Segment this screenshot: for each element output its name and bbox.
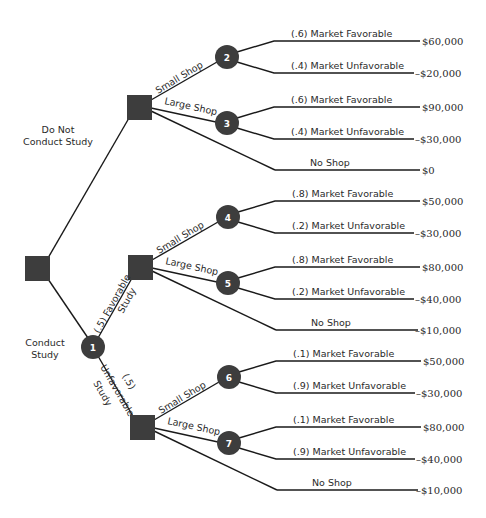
chance-node-5: 5 [216, 271, 240, 295]
decision-node-favorable [128, 255, 153, 280]
chance-node-3: 3 [215, 111, 239, 135]
outcome-label: (.8) Market Favorable [292, 188, 393, 199]
edge-no-shop-top [151, 111, 275, 170]
decision-node-unfavorable [130, 415, 155, 440]
node-number: 7 [226, 439, 232, 449]
payoff-value: $90,000 [422, 102, 463, 113]
do-not-conduct-label: Do Not [42, 124, 75, 135]
large-shop-label: Large Shop [164, 95, 219, 117]
payoff-value: $50,000 [422, 196, 463, 207]
outcome-label: (.6) Market Favorable [291, 28, 392, 39]
payoff-value: –$20,000 [415, 68, 461, 79]
decision-node-no-study [127, 95, 152, 120]
outcome-label: (.1) Market Favorable [293, 414, 394, 425]
payoff-value: $0 [422, 165, 435, 176]
payoff-value: $80,000 [422, 262, 463, 273]
chance-node-7: 7 [217, 431, 241, 455]
large-shop-label: Large Shop [165, 255, 220, 277]
outcome-label: (.2) Market Unfavorable [292, 220, 405, 231]
no-shop-label: No Shop [310, 157, 350, 168]
node-number: 4 [225, 213, 231, 223]
conduct-label-2: Study [31, 349, 59, 360]
outcome-label: (.9) Market Unfavorable [293, 446, 406, 457]
outcome-label: (.8) Market Favorable [292, 254, 393, 265]
payoff-value: –$30,000 [415, 228, 461, 239]
no-shop-label: No Shop [312, 477, 352, 488]
outcome-label: (.2) Market Unfavorable [292, 286, 405, 297]
node-number: 1 [90, 343, 96, 353]
outcome-label: (.4) Market Unfavorable [291, 126, 404, 137]
decision-tree: 1 2 3 4 5 6 7 Do Not Conduct Study [0, 0, 486, 518]
node-number: 2 [224, 53, 230, 63]
payoff-value: $60,000 [422, 36, 463, 47]
chance-node-6: 6 [217, 365, 241, 389]
payoff-value: $80,000 [423, 422, 464, 433]
chance-node-4: 4 [216, 205, 240, 229]
conduct-label: Conduct [25, 337, 65, 348]
outcome-label: (.4) Market Unfavorable [291, 60, 404, 71]
no-shop-label: No Shop [311, 317, 351, 328]
root-decision-node [25, 256, 50, 281]
outcome-label: (.9) Market Unfavorable [293, 380, 406, 391]
edge-no-shop-fav [152, 271, 276, 330]
payoff-value: –$10,000 [415, 325, 461, 336]
payoff-value: $50,000 [423, 356, 464, 367]
chance-node-1: 1 [81, 335, 105, 359]
payoff-value: –$40,000 [415, 294, 461, 305]
outcome-label: (.6) Market Favorable [291, 94, 392, 105]
small-shop-label: Small Shop [153, 59, 204, 96]
large-shop-label: Large Shop [167, 415, 222, 437]
edge-conduct [48, 279, 88, 338]
do-not-conduct-label-2: Conduct Study [23, 136, 93, 147]
node-number: 3 [224, 119, 230, 129]
payoff-value: –$40,000 [416, 454, 462, 465]
small-shop-label: Small Shop [154, 219, 205, 256]
payoff-value: –$30,000 [416, 388, 462, 399]
small-shop-label: Small Shop [156, 379, 207, 416]
chance-node-2: 2 [215, 45, 239, 69]
node-number: 5 [225, 279, 231, 289]
payoffs: $60,000 –$20,000 $90,000 –$30,000 $0 $50… [415, 36, 464, 496]
outcome-label: (.1) Market Favorable [293, 348, 394, 359]
payoff-value: –$30,000 [415, 134, 461, 145]
payoff-value: –$10,000 [416, 485, 462, 496]
node-number: 6 [226, 373, 232, 383]
edge-no-shop-unfav [154, 431, 277, 490]
